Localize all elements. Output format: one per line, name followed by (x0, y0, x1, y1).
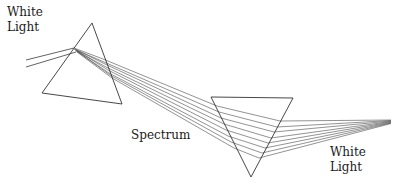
recombination-rays-in-prism (217, 106, 280, 158)
spectrum-label: Spectrum (131, 128, 190, 143)
recombining-prism (211, 97, 293, 177)
incoming-white-light-rays (26, 48, 76, 67)
white-light-input-line2: Light (7, 20, 43, 35)
white-light-output-line2: Light (330, 160, 366, 175)
white-light-input-line1: White (7, 5, 43, 20)
dispersing-prism (42, 23, 122, 104)
white-light-output-line1: White (330, 145, 366, 160)
white-light-output-label: White Light (330, 145, 366, 175)
prism-diagram: White Light Spectrum White Light (0, 0, 409, 189)
converging-rays (259, 120, 391, 158)
white-light-input-label: White Light (7, 5, 43, 35)
